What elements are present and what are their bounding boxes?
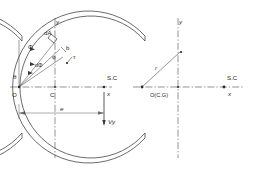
Vy-label: Vy: [108, 119, 115, 125]
left-x-axis-label: x: [107, 91, 110, 97]
Vy-arrowhead: [102, 120, 105, 126]
right-y-axis-label: y: [179, 19, 182, 25]
tau-label: τ: [73, 54, 75, 60]
b-label: b: [66, 45, 69, 51]
left-angle-arrowheads: [28, 47, 35, 75]
left-shear-center-marker: [103, 86, 106, 89]
e-arrow-right: [98, 111, 104, 115]
right-origin-cg-marker: [141, 86, 144, 89]
left-axes-group: [10, 18, 112, 158]
right-origin-cg-label: O(C.G): [150, 93, 168, 99]
right-x-axis-label: x: [228, 91, 231, 97]
tau-leader-line: [67, 57, 72, 63]
diagram-vector-layer: [0, 0, 257, 174]
e-label: e: [60, 106, 63, 112]
centroid-C-marker: [54, 86, 56, 88]
theta-label: θ: [13, 74, 16, 80]
left-y-axis-label: y: [56, 19, 59, 25]
radius-r-label: r: [155, 65, 157, 71]
right-arc-point-marker: [180, 51, 182, 53]
centroid-C-label: C: [50, 92, 54, 98]
phi-label: Φ: [28, 44, 33, 50]
dA-label: dA: [44, 30, 52, 36]
radius-line-r: [142, 52, 180, 87]
right-axes-group: [133, 18, 244, 158]
right-center-marker: [177, 86, 179, 88]
diagram-canvas: y dA Φ dΦ φ θ b τ O C S.C x e Vy y r O(C…: [0, 0, 257, 174]
phi-inner-label: φ: [52, 55, 56, 61]
origin-O-label: O: [12, 92, 17, 98]
right-shear-center-label: S.C: [227, 75, 237, 81]
left-shear-center-label: S.C: [107, 75, 117, 81]
dphi-label: dΦ: [35, 63, 43, 69]
right-shear-center-marker: [223, 86, 226, 89]
